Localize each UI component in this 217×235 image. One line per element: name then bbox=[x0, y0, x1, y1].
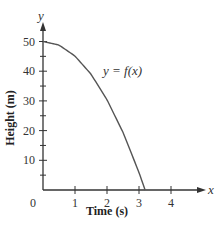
curve-annotation: y = f(x) bbox=[101, 63, 142, 78]
y-tick-label: 30 bbox=[23, 94, 35, 108]
y-tick-label: 40 bbox=[23, 64, 35, 78]
x-axis-arrow-icon bbox=[197, 187, 206, 193]
y-tick-label: 10 bbox=[23, 153, 35, 167]
plot-area: 1020304050 01234 bbox=[23, 22, 206, 210]
y-tick-label: 20 bbox=[23, 124, 35, 138]
x-axis-variable: x bbox=[207, 182, 214, 197]
y-tick-label: 50 bbox=[23, 35, 35, 49]
x-tick-label: 1 bbox=[72, 196, 78, 210]
x-axis-label: Time (s) bbox=[86, 204, 128, 218]
y-axis-label: Height (m) bbox=[3, 90, 17, 146]
x-tick-label: 3 bbox=[136, 196, 142, 210]
chart: 1020304050 01234 y x y = f(x) Time (s) H… bbox=[0, 0, 217, 235]
x-tick-label: 4 bbox=[168, 196, 174, 210]
y-axis-arrow-icon bbox=[40, 22, 46, 31]
y-axis-variable: y bbox=[36, 8, 44, 23]
x-tick-label: 0 bbox=[30, 196, 36, 210]
